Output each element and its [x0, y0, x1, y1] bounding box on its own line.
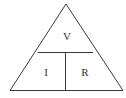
ohms-law-triangle: V I R	[0, 0, 126, 98]
label-current: I	[44, 66, 48, 78]
triangle-outline	[10, 4, 123, 91]
label-voltage: V	[63, 30, 71, 42]
label-resistance: R	[81, 66, 89, 78]
